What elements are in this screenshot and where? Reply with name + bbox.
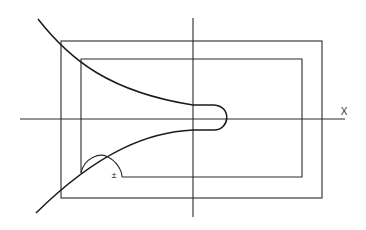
- bulb-curve: [193, 105, 227, 130]
- x-axis-label: X: [341, 106, 348, 117]
- plus-minus-label: ±: [112, 170, 117, 180]
- diagram-canvas: X ±: [0, 0, 366, 230]
- inner-rectangle: [81, 59, 302, 177]
